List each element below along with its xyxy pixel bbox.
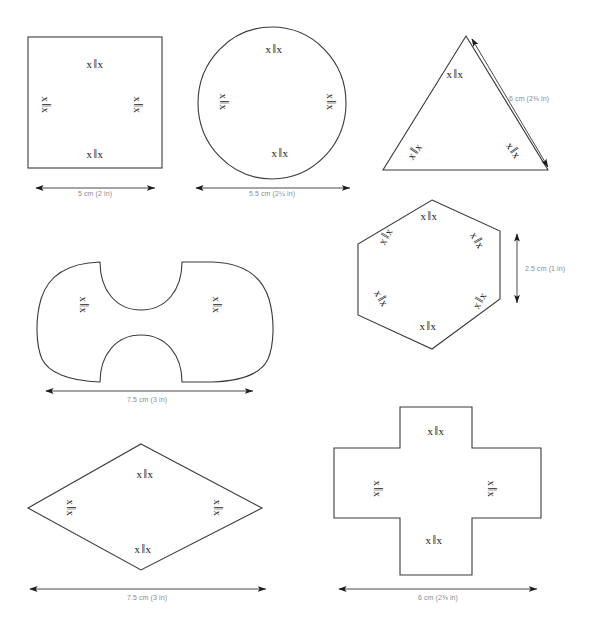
mark-x-right: x — [98, 148, 104, 160]
mark-x-right: x — [146, 543, 152, 555]
dimension-label-triangle: 6 cm (2⅜ in) — [509, 95, 549, 102]
mark-x-right: x — [65, 511, 77, 517]
mark-x-right: x — [148, 468, 154, 480]
symmetry-mark-dogbone-right: x‖x — [211, 296, 224, 313]
mark-x-right: x — [283, 147, 289, 159]
mark-x-right: x — [40, 108, 52, 114]
mark-x-right: x — [98, 58, 104, 70]
dimension-label-hexagon: 2.5 cm (1 in) — [525, 265, 565, 272]
symmetry-mark-cross-top: x‖x — [427, 424, 444, 437]
dimension-label-rhombus: 7.5 cm (3 in) — [127, 594, 167, 601]
symmetry-mark-cross-right: x‖x — [486, 480, 499, 497]
mark-x-right: x — [212, 511, 224, 517]
symmetry-mark-cross-left: x‖x — [372, 480, 385, 497]
symmetry-mark-hexagon-bottom: x‖x — [419, 319, 436, 332]
dimension-label-circle: 5.5 cm (2¼ in) — [249, 190, 295, 197]
mark-x-right: x — [439, 425, 445, 437]
dimension-label-cross: 6 cm (2⅜ in) — [418, 594, 458, 601]
dimension-label-square: 5 cm (2 in) — [78, 190, 112, 197]
mark-x-right: x — [78, 308, 90, 314]
mark-x-right: x — [325, 105, 337, 111]
mark-x-right: x — [432, 210, 438, 222]
mark-x-right: x — [277, 43, 283, 55]
mark-x-right: x — [431, 320, 437, 332]
mark-x-right: x — [218, 105, 230, 111]
symmetry-mark-rhombus-bottom: x‖x — [134, 542, 151, 555]
symmetry-mark-circle-top: x‖x — [265, 42, 282, 55]
symmetry-mark-circle-left: x‖x — [218, 93, 231, 110]
mark-x-right: x — [458, 68, 464, 80]
shapes-diagram-sheet: x‖x x‖x x‖x x‖x 5 cm (2 in) x‖x x‖x x‖x … — [0, 0, 589, 636]
symmetry-mark-square-right: x‖x — [132, 96, 145, 113]
symmetry-mark-hexagon-top: x‖x — [420, 209, 437, 222]
shapes-vector-layer — [0, 0, 589, 636]
symmetry-mark-square-top: x‖x — [86, 57, 103, 70]
shape-dogbone — [37, 262, 273, 382]
mark-x-right: x — [437, 534, 443, 546]
mark-x-right: x — [211, 308, 223, 314]
dimension-label-dogbone: 7.5 cm (3 in) — [127, 396, 167, 403]
symmetry-mark-rhombus-top: x‖x — [136, 467, 153, 480]
symmetry-mark-cross-bottom: x‖x — [425, 533, 442, 546]
symmetry-mark-square-bottom: x‖x — [86, 147, 103, 160]
symmetry-mark-circle-bottom: x‖x — [271, 146, 288, 159]
symmetry-mark-dogbone-left: x‖x — [78, 296, 91, 313]
mark-x-right: x — [132, 108, 144, 114]
symmetry-mark-circle-right: x‖x — [325, 93, 338, 110]
mark-x-right: x — [372, 492, 384, 498]
symmetry-mark-triangle-top: x‖x — [446, 67, 463, 80]
mark-x-right: x — [486, 492, 498, 498]
symmetry-mark-rhombus-right: x‖x — [212, 499, 225, 516]
symmetry-mark-rhombus-left: x‖x — [65, 499, 78, 516]
symmetry-mark-square-left: x‖x — [40, 96, 53, 113]
